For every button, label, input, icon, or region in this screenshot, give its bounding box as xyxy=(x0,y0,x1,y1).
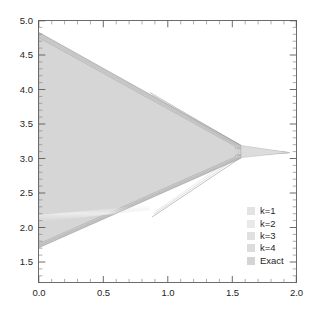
chart-figure: 1.5 2.0 2.5 3.0 3.5 4.0 4.5 5.0 0.0 0.5 … xyxy=(0,0,316,317)
y-tick-label-4: 3.0 xyxy=(0,153,33,164)
legend-label-k4: k=4 xyxy=(260,243,276,253)
y-tick-label-7: 4.5 xyxy=(0,49,33,60)
legend-swatch-k1 xyxy=(247,207,255,215)
legend-swatch-k2 xyxy=(247,220,255,228)
y-tick-label-3: 2.5 xyxy=(0,187,33,198)
x-tick-label-2: 0.5 xyxy=(89,287,119,298)
legend-label-k1: k=1 xyxy=(260,206,276,216)
y-tick-label-5: 3.5 xyxy=(0,118,33,129)
y-tick-label-2: 2.0 xyxy=(0,222,33,233)
legend-item-k3: k=3 xyxy=(247,230,305,242)
legend-swatch-k3 xyxy=(247,232,255,240)
legend-item-k1: k=1 xyxy=(247,205,305,217)
legend-label-k2: k=2 xyxy=(260,219,276,229)
legend-swatch-exact xyxy=(247,257,255,265)
y-tick-label-1: 1.5 xyxy=(0,256,33,267)
x-tick-label-4: 1.5 xyxy=(218,287,248,298)
y-tick-label-6: 4.0 xyxy=(0,84,33,95)
plot-canvas xyxy=(0,0,316,317)
x-tick-label-1: 0.0 xyxy=(24,287,54,298)
legend-item-exact: Exact xyxy=(247,255,305,267)
x-tick-label-5: 2.0 xyxy=(282,287,312,298)
legend-label-exact: Exact xyxy=(260,256,284,266)
legend-item-k4: k=4 xyxy=(247,242,305,254)
legend-swatch-k4 xyxy=(247,244,255,252)
legend-item-k2: k=2 xyxy=(247,217,305,229)
y-tick-label-8: 5.0 xyxy=(0,15,33,26)
x-tick-label-3: 1.0 xyxy=(153,287,183,298)
legend-label-k3: k=3 xyxy=(260,231,276,241)
chart-legend: k=1 k=2 k=3 k=4 Exact xyxy=(247,205,305,267)
